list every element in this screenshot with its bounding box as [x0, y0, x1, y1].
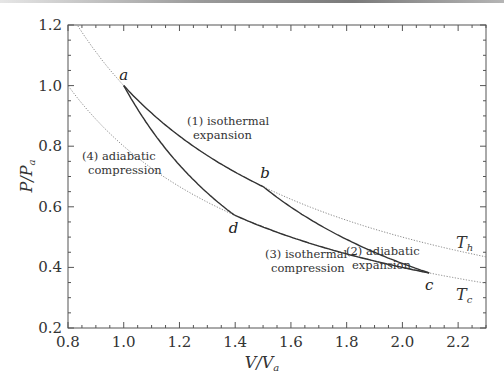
process-annotation: (4) adiabaticcompression	[82, 149, 162, 177]
y-tick-label: 1.0	[38, 77, 62, 95]
y-tick-label: 0.8	[38, 137, 62, 155]
point-label-d: d	[229, 219, 239, 237]
x-tick-label: 1.2	[168, 333, 192, 351]
isotherm-reference-curves	[54, 0, 500, 285]
x-tick-label: 1.6	[279, 333, 303, 351]
x-tick-label: 1.4	[223, 333, 247, 351]
y-tick-label: 0.6	[38, 198, 62, 216]
x-tick-label: 2.0	[390, 333, 414, 351]
temp-label-h: Th	[456, 233, 473, 253]
x-tick-label: 2.2	[446, 333, 470, 351]
temp-label-c: Tc	[456, 285, 473, 305]
temperature-labels: ThTc	[456, 233, 473, 305]
isotherm-t-h	[54, 0, 500, 260]
pv-diagram-chart: 0.81.01.21.41.61.82.02.20.20.40.60.81.01…	[0, 0, 504, 385]
process-annotation: (3) isothermalcompression	[265, 247, 348, 275]
point-label-c: c	[425, 276, 434, 294]
process-annotation: (1) isothermalexpansion	[187, 114, 270, 142]
process-annotation: (2) adiabaticexpansion	[346, 244, 420, 272]
y-tick-label: 0.2	[38, 319, 62, 337]
x-axis-title: V/Va	[245, 353, 280, 373]
point-label-a: a	[119, 66, 128, 84]
axis-tick-labels: 0.81.01.21.41.61.82.02.20.20.40.60.81.01…	[38, 16, 470, 351]
process-annotations: (1) isothermalexpansion(2) adiabaticexpa…	[82, 114, 420, 275]
y-tick-label: 0.4	[38, 258, 62, 276]
y-tick-label: 1.2	[38, 16, 62, 34]
x-tick-label: 1.8	[335, 333, 359, 351]
point-label-b: b	[260, 164, 270, 182]
y-axis-title: P/Pa	[17, 160, 37, 194]
x-tick-label: 1.0	[112, 333, 136, 351]
